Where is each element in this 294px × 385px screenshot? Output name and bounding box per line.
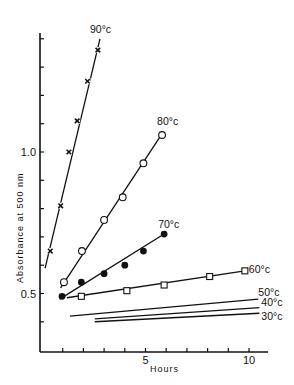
data-point [121,262,128,269]
data-point [124,288,130,294]
data-point [79,248,86,255]
data-point [59,293,66,300]
fit-lines [45,39,259,322]
series-label: 60°c [249,263,270,275]
x-axis-title: Hours [150,364,179,374]
data-point [78,293,84,299]
x-tick-label: 5 [142,354,148,366]
data-point [161,282,167,288]
data-point [85,78,91,84]
series-label: 70°c [158,218,179,230]
data-point [47,248,53,254]
data-point [119,194,126,201]
data-point [161,231,168,238]
data-point [95,47,101,53]
data-point [61,279,68,286]
y-tick-label: 1.0 [21,146,36,158]
data-point [66,149,72,155]
series-label: 30°c [261,310,282,322]
fit-line-80c [61,132,163,288]
data-point [101,270,108,277]
absorbance-chart: 0.51.0510 90°c80°c70°c60°c50°c40°c30°c H… [0,0,294,385]
data-point [207,274,213,280]
series-label: 40°c [261,296,282,308]
x-tick-label: 10 [243,354,255,366]
data-point [78,279,85,286]
series-labels: 90°c80°c70°c60°c50°c40°c30°c [90,23,283,323]
data-point [242,268,248,274]
data-point [140,248,147,255]
series-label: 80°c [157,115,178,127]
data-point [101,217,108,224]
series-label: 90°c [90,23,111,35]
y-tick-label: 0.5 [21,288,36,300]
y-axis-title: Absorbance at 500 nm [15,172,25,283]
fit-line-90c [45,39,100,268]
data-point [58,203,64,209]
fit-line-60c [67,271,245,298]
data-point [140,160,147,167]
data-point [159,132,166,139]
data-point [74,118,80,124]
